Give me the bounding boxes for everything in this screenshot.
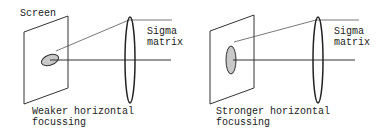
sigma-label-line2: matrix — [334, 37, 370, 48]
caption-line2: focussing — [216, 117, 270, 128]
caption-line1: Stronger horizontal — [216, 106, 330, 117]
caption-line2: focussing — [32, 117, 86, 128]
sigma-label-line1: Sigma — [334, 26, 364, 37]
screen-label: Screen — [20, 8, 56, 19]
caption-line1: Weaker horizontal — [32, 106, 134, 117]
sigma-label-line1: Sigma — [147, 26, 177, 37]
ray-line — [56, 20, 129, 51]
ray-line — [234, 20, 316, 42]
sigma-label-line2: matrix — [147, 37, 183, 48]
